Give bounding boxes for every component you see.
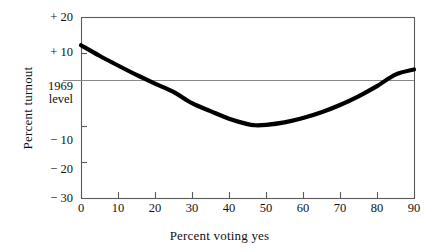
x-tick-label-0: 0 <box>61 201 101 216</box>
y-tick-label-0: + 20 <box>13 10 73 25</box>
x-tick-label-6: 60 <box>283 201 323 216</box>
plot-frame <box>82 18 415 199</box>
x-tick-label-9: 90 <box>394 201 434 216</box>
x-tick-label-3: 30 <box>172 201 212 216</box>
x-tick-label-4: 40 <box>209 201 249 216</box>
x-axis-title: Percent voting yes <box>0 228 439 244</box>
x-tick-label-7: 70 <box>320 201 360 216</box>
y-axis-title: Percent turnout <box>20 28 36 188</box>
x-tick-label-5: 50 <box>246 201 286 216</box>
chart-figure: + 20 + 10 1969 level − 10 − 20 − 30 0102… <box>0 0 439 252</box>
data-curve-0 <box>81 45 414 125</box>
x-tick-label-1: 10 <box>98 201 138 216</box>
x-tick-label-8: 80 <box>357 201 397 216</box>
x-tick-label-2: 20 <box>135 201 175 216</box>
